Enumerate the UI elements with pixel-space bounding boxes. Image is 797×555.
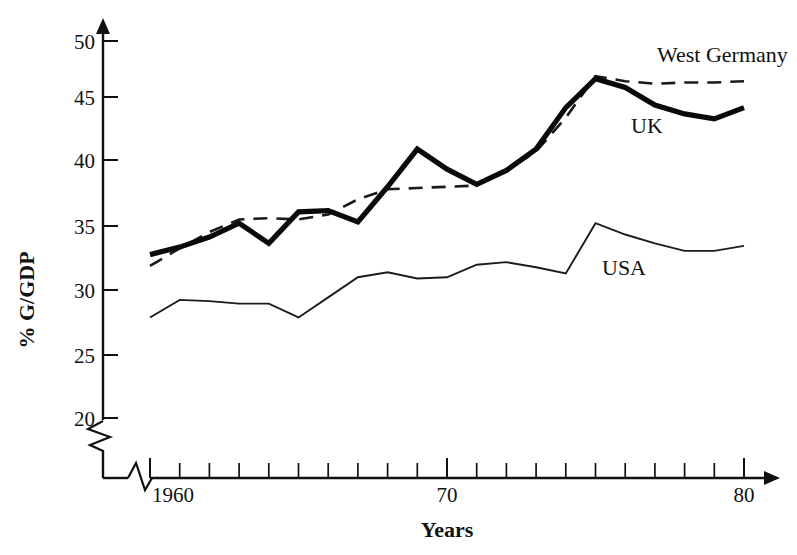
arrow-right-icon bbox=[764, 471, 780, 485]
y-tick-label-35: 35 bbox=[74, 215, 95, 239]
y-tick-label-25: 25 bbox=[74, 344, 95, 368]
y-axis-title: % G/GDP bbox=[14, 251, 39, 348]
x-axis-title: Years bbox=[421, 517, 474, 542]
series-label-west-germany: West Germany bbox=[657, 42, 788, 67]
series-label-usa: USA bbox=[602, 255, 646, 280]
axis-break-zigzag-icon-x bbox=[128, 463, 152, 490]
line-chart: 50 45 40 35 30 25 20 % G/GDP bbox=[0, 0, 797, 555]
y-tick-label-50: 50 bbox=[74, 30, 95, 54]
x-tick-label-70: 70 bbox=[437, 483, 458, 507]
y-tick-label-20: 20 bbox=[74, 407, 95, 431]
series-line-usa bbox=[150, 223, 744, 317]
x-tick-label-80: 80 bbox=[734, 483, 755, 507]
x-tick-label-1960: 1960 bbox=[152, 483, 194, 507]
series-labels: West Germany UK USA bbox=[602, 42, 788, 280]
series-line-uk bbox=[150, 79, 744, 255]
chart-figure: 50 45 40 35 30 25 20 % G/GDP bbox=[0, 0, 797, 555]
y-axis: 50 45 40 35 30 25 20 % G/GDP bbox=[14, 18, 118, 478]
y-tick-label-30: 30 bbox=[74, 279, 95, 303]
y-tick-label-40: 40 bbox=[74, 149, 95, 173]
x-axis: 1960 70 80 Years bbox=[103, 458, 780, 542]
arrow-up-icon bbox=[96, 18, 110, 34]
series-label-uk: UK bbox=[631, 113, 663, 138]
y-tick-label-45: 45 bbox=[74, 86, 95, 110]
